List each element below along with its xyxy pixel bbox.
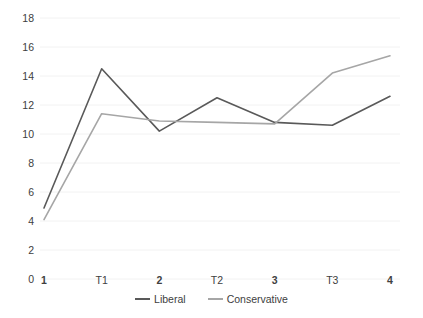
legend-line-swatch-icon (135, 298, 150, 300)
x-axis-tick-label: 2 (139, 275, 179, 286)
y-axis-tick-label: 2 (8, 245, 34, 256)
x-axis-tick-label: 1 (24, 275, 64, 286)
chart-legend: LiberalConservative (0, 294, 423, 305)
series-line-conservative (44, 56, 390, 220)
series-line-liberal (44, 69, 390, 208)
x-axis-tick-label: T2 (197, 275, 237, 286)
y-axis-tick-label: 10 (8, 129, 34, 140)
legend-label: Liberal (154, 294, 186, 305)
line-chart: 024681012141618 1T12T23T34 LiberalConser… (0, 0, 423, 318)
y-axis-tick-label: 12 (8, 100, 34, 111)
x-axis-tick-label: 4 (370, 275, 410, 286)
legend-item-conservative[interactable]: Conservative (208, 294, 288, 305)
x-axis-tick-label: T1 (82, 275, 122, 286)
y-axis-tick-label: 4 (8, 216, 34, 227)
y-axis-tick-label: 14 (8, 71, 34, 82)
legend-item-liberal[interactable]: Liberal (135, 294, 186, 305)
series-lines (44, 56, 390, 220)
legend-label: Conservative (227, 294, 288, 305)
gridlines (40, 18, 400, 279)
x-axis-tick-label: T3 (312, 275, 352, 286)
y-axis-tick-label: 16 (8, 42, 34, 53)
x-axis-tick-label: 3 (255, 275, 295, 286)
y-axis-tick-label: 6 (8, 187, 34, 198)
chart-plot-area (0, 0, 423, 318)
y-axis-tick-label: 8 (8, 158, 34, 169)
y-axis-tick-label: 18 (8, 13, 34, 24)
legend-line-swatch-icon (208, 298, 223, 300)
